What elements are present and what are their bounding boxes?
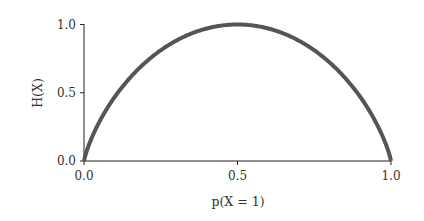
x-axis-label: p(X = 1) <box>211 194 264 209</box>
x-ticks: 0.00.51.0 <box>74 161 400 183</box>
y-tick-label: 0.0 <box>57 154 76 168</box>
x-tick-label: 1.0 <box>381 169 400 183</box>
y-axis-label: H(X) <box>30 78 45 108</box>
entropy-chart: 0.00.51.0 0.00.51.0 p(X = 1) H(X) <box>0 0 424 221</box>
y-tick-label: 1.0 <box>57 18 76 32</box>
y-ticks: 0.00.51.0 <box>57 18 84 169</box>
y-tick-label: 0.5 <box>57 86 76 100</box>
x-tick-label: 0.5 <box>228 169 247 183</box>
entropy-curve <box>84 25 391 162</box>
x-tick-label: 0.0 <box>74 169 93 183</box>
axes <box>84 24 391 161</box>
